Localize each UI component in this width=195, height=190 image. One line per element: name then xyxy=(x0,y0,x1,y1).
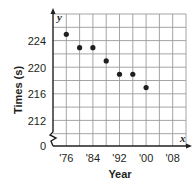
data-point xyxy=(77,45,82,50)
y-axis-variable: y xyxy=(55,11,62,23)
scatter-chart: 0212216220224 '76'84'92'00'08 Times (s) … xyxy=(0,0,195,190)
data-point xyxy=(90,45,95,50)
x-tick-label: '08 xyxy=(166,152,180,164)
data-point xyxy=(104,58,109,63)
x-tick-label: '92 xyxy=(112,152,126,164)
y-tick-label: 220 xyxy=(28,62,46,74)
y-tick-label: 216 xyxy=(28,88,46,100)
x-axis-title: Year xyxy=(108,168,132,180)
data-point xyxy=(144,85,149,90)
y-tick-labels: 0212216220224 xyxy=(28,35,46,152)
x-tick-label: '84 xyxy=(86,152,100,164)
y-axis-title: Times (s) xyxy=(12,66,24,114)
y-tick-label: 224 xyxy=(28,35,46,47)
grid-lines xyxy=(53,14,186,146)
x-tick-label: '00 xyxy=(139,152,153,164)
x-tick-labels: '76'84'92'00'08 xyxy=(59,152,180,164)
data-point xyxy=(130,72,135,77)
y-tick-label: 212 xyxy=(28,115,46,127)
data-point xyxy=(117,72,122,77)
data-point xyxy=(64,32,69,37)
y-tick-label: 0 xyxy=(40,140,46,152)
axes xyxy=(50,8,192,149)
x-tick-label: '76 xyxy=(59,152,73,164)
x-axis-variable: x xyxy=(179,132,186,144)
